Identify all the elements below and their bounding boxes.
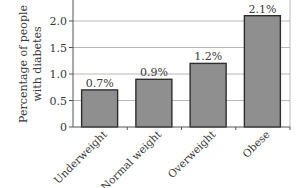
bar-chart: 00.51.01.52.00.7%Underweight0.9%Normal w… (0, 0, 304, 188)
y-axis-title-line-1: Percentage of people (17, 5, 30, 123)
bars (82, 16, 281, 127)
x-category-label: Obese (240, 128, 272, 160)
data-label: 0.7% (86, 77, 114, 90)
bar-obese (244, 16, 280, 127)
bar-underweight (82, 90, 118, 127)
x-category-label: Overweight (165, 127, 218, 180)
x-category-label: Underweight (51, 127, 109, 185)
y-axis-title-line-2: with diabetes (31, 26, 44, 102)
bar-overweight (190, 63, 226, 127)
y-tick-label: 1.5 (50, 42, 68, 55)
y-tick-label: 2.0 (50, 15, 68, 28)
data-label: 1.2% (194, 50, 222, 63)
y-tick-label: 0 (60, 121, 67, 134)
data-label: 0.9% (140, 66, 168, 79)
y-tick-label: 1.0 (50, 68, 68, 81)
bar-normal-weight (136, 79, 172, 127)
y-tick-label: 0.5 (50, 95, 68, 108)
data-label: 2.1% (248, 3, 276, 16)
